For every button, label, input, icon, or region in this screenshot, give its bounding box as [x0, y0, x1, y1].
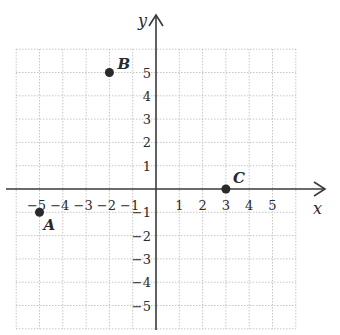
y-axis-label: y	[137, 11, 148, 30]
y-tick-label: 5	[143, 66, 151, 81]
axes: x y	[6, 11, 325, 330]
x-tick-label: −4	[50, 198, 69, 213]
y-tick-label: −1	[132, 205, 151, 220]
y-tick-label: −5	[132, 299, 151, 314]
x-tick-label: 5	[268, 198, 276, 213]
y-tick-label: −4	[132, 275, 151, 290]
x-tick-label: −3	[74, 198, 93, 213]
point-c	[221, 185, 230, 194]
point-a-label: A	[42, 216, 56, 234]
x-tick-label: 4	[245, 198, 253, 213]
point-b-label: B	[116, 55, 130, 73]
y-tick-label: 2	[143, 135, 151, 150]
point-b	[105, 68, 114, 77]
y-tick-label: 1	[143, 159, 151, 174]
x-tick-label: −2	[97, 198, 116, 213]
x-tick-label: 2	[198, 198, 206, 213]
x-tick-labels: −5−4−3−2−112345	[27, 198, 277, 213]
x-axis-label: x	[313, 199, 322, 218]
y-tick-label: −3	[132, 252, 151, 267]
x-tick-label: 1	[175, 198, 183, 213]
y-tick-label: 3	[143, 112, 151, 127]
coordinate-plane: x y −5−4−3−2−112345 54321−1−2−3−4−5 A B …	[0, 0, 340, 335]
y-tick-label: −2	[132, 229, 151, 244]
point-c-label: C	[233, 169, 245, 187]
x-tick-label: 3	[222, 198, 230, 213]
y-tick-label: 4	[143, 89, 151, 104]
